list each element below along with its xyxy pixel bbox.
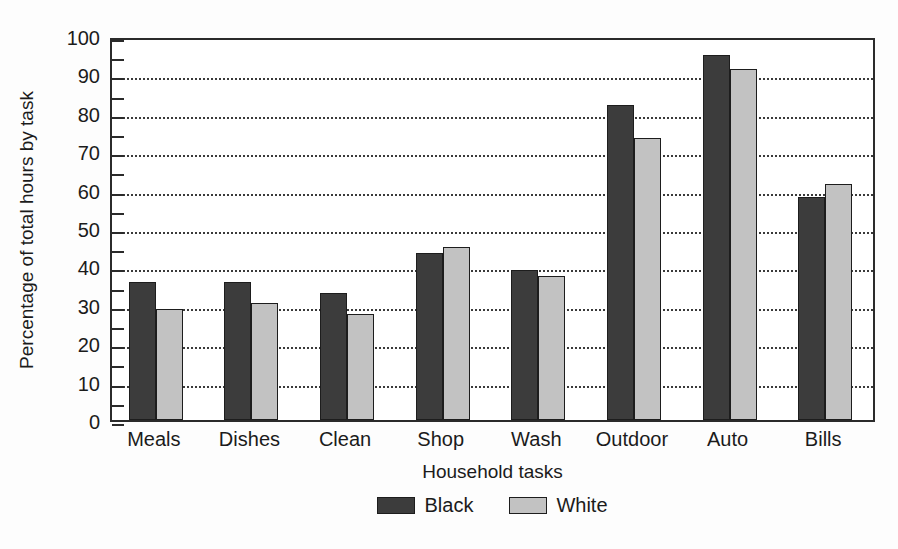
y-axis-tick [112,117,124,119]
bar [538,276,565,420]
y-tick-label: 80 [46,105,100,125]
bar [156,309,183,420]
x-axis-title: Household tasks [110,461,875,483]
bar [224,282,251,420]
bar [443,247,470,420]
y-axis-tick [112,40,124,42]
y-tick-label: 0 [46,412,100,432]
x-tick-label: Outdoor [596,428,668,451]
y-axis-tick [112,213,124,215]
y-tick-label: 30 [46,297,100,317]
x-tick-label: Bills [805,428,842,451]
y-axis-tick [112,290,124,292]
bar [634,138,661,420]
x-tick-label: Auto [707,428,748,451]
y-axis-tick [112,98,124,100]
gridline [112,232,873,234]
chart-legend: BlackWhite [110,494,875,517]
x-axis-tick-labels: MealsDishesCleanShopWashOutdoorAutoBills [110,428,875,458]
x-tick-label: Wash [511,428,561,451]
bar [825,184,852,420]
bar [730,69,757,420]
legend-label: White [556,494,607,517]
x-tick-label: Shop [417,428,464,451]
y-tick-label: 60 [46,182,100,202]
y-axis-tick-labels: 0102030405060708090100 [46,38,100,422]
y-axis-tick [112,405,124,407]
y-axis-tick [112,194,124,196]
plot-area [110,38,875,422]
y-axis-tick [112,270,124,272]
y-axis-tick [112,366,124,368]
y-tick-label: 90 [46,66,100,86]
gridline [112,155,873,157]
plot-inner [112,40,873,420]
y-axis-tick [112,347,124,349]
bar [320,293,347,420]
y-axis-tick [112,155,124,157]
gridline [112,194,873,196]
legend-swatch-icon [377,497,415,514]
y-tick-label: 100 [46,28,100,48]
y-axis-tick [112,232,124,234]
y-axis-tick [112,174,124,176]
bar [798,197,825,420]
y-tick-label: 50 [46,220,100,240]
gridline [112,270,873,272]
bar [607,105,634,420]
bar [251,303,278,420]
bar [511,270,538,420]
x-tick-label: Clean [319,428,371,451]
legend-label: Black [424,494,473,517]
x-tick-label: Meals [127,428,180,451]
y-tick-label: 10 [46,374,100,394]
y-axis-tick [112,78,124,80]
bar [129,282,156,420]
x-tick-label: Dishes [219,428,280,451]
y-tick-label: 40 [46,258,100,278]
bar [416,253,443,420]
legend-entry[interactable]: White [509,494,607,517]
bar [703,55,730,420]
legend-entry[interactable]: Black [377,494,473,517]
y-axis-tick [112,59,124,61]
legend-swatch-icon [509,497,547,514]
gridline [112,117,873,119]
y-axis-tick [112,309,124,311]
bar [347,314,374,420]
y-axis-title: Percentage of total hours by task [12,38,42,422]
y-tick-label: 20 [46,335,100,355]
gridline [112,78,873,80]
y-axis-tick [112,251,124,253]
y-tick-label: 70 [46,143,100,163]
y-axis-tick [112,328,124,330]
y-axis-tick [112,424,124,426]
y-axis-tick [112,136,124,138]
y-axis-tick [112,386,124,388]
chart-figure: Percentage of total hours by task 010203… [0,0,898,549]
